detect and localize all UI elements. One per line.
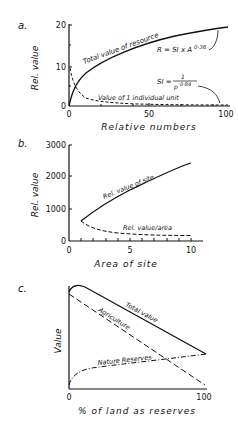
formula-si-lhs: SI = <box>157 78 172 86</box>
panel-b-ytick-1000: 1000 <box>46 205 66 214</box>
panel-a-xtick-0: 0 <box>66 110 71 119</box>
figure: a. 20 10 0 0 50 100 Relative numbers Rel… <box>0 0 238 435</box>
panel-c-xtick-0: 0 <box>66 393 71 402</box>
panel-c-series-label-nature: Nature Reserves <box>97 353 152 367</box>
panel-a-series-label-total: Total value of resource <box>82 31 160 66</box>
panel-c: c. 0 100 % of land as reserves Value Tot… <box>18 283 212 416</box>
formula-si-exponent: 0·84 <box>180 81 191 87</box>
panel-b-series-label-area: Rel. value/area <box>123 224 172 232</box>
panel-a-xtick-50: 50 <box>144 110 154 119</box>
panel-a-xlabel: Relative numbers <box>101 122 196 132</box>
panel-b-letter: b. <box>18 138 28 149</box>
formula-si-numerator: 1 <box>181 73 185 80</box>
panel-a-ytick-0: 0 <box>61 102 66 111</box>
panel-c-series-label-total: Total value <box>124 301 159 325</box>
panel-b-ytick-0: 0 <box>61 237 66 246</box>
series-total-value <box>69 285 206 354</box>
panel-b-xtick-5: 5 <box>127 246 132 255</box>
panel-a: a. 20 10 0 0 50 100 Relative numbers Rel… <box>18 20 234 132</box>
panel-c-ylabel: Value <box>53 328 63 353</box>
panel-b: b. 3000 2000 1000 0 0 5 10 Area of site … <box>18 138 203 269</box>
panel-a-ytick-10: 10 <box>56 63 66 72</box>
panel-c-xtick-100: 100 <box>196 393 211 402</box>
panel-a-series-label-individual: Value of 1 individual unit <box>98 94 179 102</box>
panel-b-xtick-0: 0 <box>66 246 71 255</box>
panel-b-ytick-2000: 2000 <box>46 172 66 181</box>
series-rel-value-of-site <box>81 163 191 221</box>
panel-b-xtick-10: 10 <box>186 246 196 255</box>
panel-a-xtick-100: 100 <box>218 110 233 119</box>
panel-a-letter: a. <box>18 20 27 31</box>
panel-b-xlabel: Area of site <box>93 259 158 269</box>
panel-c-letter: c. <box>18 283 27 294</box>
formula-r-exponent: 0·36 <box>194 44 207 50</box>
panel-c-xlabel: % of land as reserves <box>78 406 196 416</box>
formula-r-text: R = SI x A <box>157 46 192 54</box>
formula-si-denominator: p <box>173 83 178 91</box>
panel-a-ylabel: Rel. value <box>30 45 40 90</box>
panel-b-ytick-3000: 3000 <box>46 141 66 150</box>
panel-b-ylabel: Rel. value <box>30 172 40 217</box>
panel-a-ytick-20: 20 <box>56 21 66 30</box>
panel-b-series-label-site: Rel. value of site <box>102 173 155 201</box>
